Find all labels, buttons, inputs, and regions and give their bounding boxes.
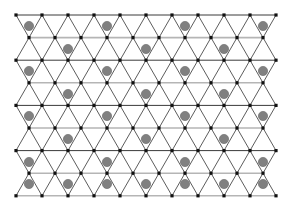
lattice-vertex — [261, 36, 264, 39]
lattice-vertex — [131, 36, 134, 39]
site-marker — [258, 111, 267, 120]
lattice-vertex — [66, 59, 69, 62]
lattice-vertex — [27, 126, 30, 129]
lattice-vertex — [40, 59, 43, 62]
site-marker — [219, 179, 228, 188]
lattice-vertex — [235, 81, 238, 84]
lattice-vertex — [170, 13, 173, 16]
lattice-vertex — [170, 59, 173, 62]
lattice-vertex — [209, 36, 212, 39]
lattice-vertex — [14, 13, 17, 16]
lattice-vertex — [144, 59, 147, 62]
lattice-vertex — [40, 149, 43, 152]
lattice-vertex — [14, 149, 17, 152]
lattice-vertex — [235, 36, 238, 39]
site-marker — [102, 179, 111, 188]
lattice-vertex — [170, 194, 173, 197]
site-marker — [24, 157, 33, 166]
lattice-vertex — [196, 59, 199, 62]
lattice-vertex — [105, 36, 108, 39]
lattice-vertex — [144, 13, 147, 16]
lattice-vertex — [261, 126, 264, 129]
site-marker — [24, 179, 33, 188]
site-marker — [63, 89, 72, 98]
lattice-vertex — [170, 149, 173, 152]
site-marker — [258, 157, 267, 166]
site-marker — [63, 179, 72, 188]
lattice-vertex — [40, 194, 43, 197]
site-marker — [219, 134, 228, 143]
lattice-vertex — [105, 172, 108, 175]
lattice-vertex — [144, 149, 147, 152]
lattice-vertex — [144, 194, 147, 197]
site-marker — [102, 157, 111, 166]
lattice-vertex — [144, 104, 147, 107]
lattice-vertex — [157, 81, 160, 84]
lattice-vertex — [66, 13, 69, 16]
site-marker — [24, 66, 33, 75]
lattice-vertex — [79, 126, 82, 129]
site-marker — [24, 111, 33, 120]
lattice-vertex — [209, 126, 212, 129]
lattice-vertex — [92, 59, 95, 62]
lattice-vertex — [14, 194, 17, 197]
lattice-vertex — [248, 149, 251, 152]
lattice-vertex — [157, 172, 160, 175]
lattice-vertex — [53, 126, 56, 129]
lattice-vertex — [196, 104, 199, 107]
lattice-vertex — [235, 126, 238, 129]
lattice-vertex — [222, 149, 225, 152]
lattice-vertex — [274, 194, 277, 197]
lattice-vertex — [274, 149, 277, 152]
lattice-vertex — [170, 104, 173, 107]
lattice-vertex — [131, 126, 134, 129]
lattice-vertex — [274, 59, 277, 62]
site-marker — [141, 44, 150, 53]
lattice-vertex — [209, 81, 212, 84]
lattice-vertex — [183, 81, 186, 84]
lattice-vertex — [79, 81, 82, 84]
lattice-vertex — [92, 104, 95, 107]
lattice-vertex — [118, 194, 121, 197]
lattice-vertex — [131, 172, 134, 175]
lattice-vertex — [261, 172, 264, 175]
site-marker — [24, 21, 33, 30]
lattice-vertex — [222, 13, 225, 16]
lattice-vertex — [66, 149, 69, 152]
lattice-vertex — [131, 81, 134, 84]
lattice-vertex — [183, 126, 186, 129]
site-marker — [180, 111, 189, 120]
lattice-vertex — [27, 172, 30, 175]
site-marker — [141, 89, 150, 98]
site-marker — [219, 44, 228, 53]
lattice-vertex — [235, 172, 238, 175]
site-marker — [219, 89, 228, 98]
lattice-vertex — [79, 172, 82, 175]
lattice-vertex — [66, 104, 69, 107]
lattice-vertex — [196, 13, 199, 16]
site-marker — [180, 66, 189, 75]
lattice-vertex — [118, 59, 121, 62]
lattice-vertex — [118, 149, 121, 152]
lattice-vertex — [222, 59, 225, 62]
lattice-vertex — [248, 194, 251, 197]
lattice-vertex — [183, 36, 186, 39]
lattice-vertex — [196, 194, 199, 197]
lattice-vertex — [274, 104, 277, 107]
site-marker — [258, 21, 267, 30]
lattice-vertex — [53, 172, 56, 175]
lattice-vertex — [248, 13, 251, 16]
lattice-vertex — [40, 104, 43, 107]
site-marker — [102, 66, 111, 75]
lattice-figure — [0, 0, 292, 215]
lattice-vertex — [209, 172, 212, 175]
lattice-vertex — [105, 126, 108, 129]
lattice-vertex — [196, 149, 199, 152]
site-marker — [102, 111, 111, 120]
lattice-vertex — [248, 59, 251, 62]
lattice-vertex — [261, 81, 264, 84]
lattice-vertex — [157, 126, 160, 129]
site-marker — [258, 179, 267, 188]
lattice-vertex — [92, 13, 95, 16]
lattice-vertex — [27, 81, 30, 84]
